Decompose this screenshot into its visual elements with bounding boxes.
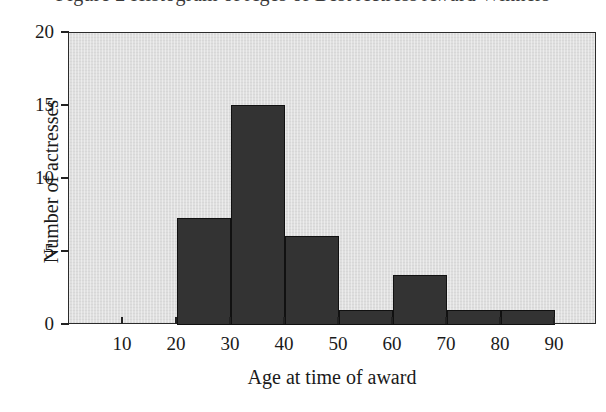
plot-area (68, 32, 596, 324)
x-tick-mark (283, 317, 285, 324)
x-tick-label: 10 (100, 334, 144, 353)
histogram-bar (393, 275, 447, 325)
histogram-bar (177, 218, 231, 325)
x-tick-label: 70 (424, 334, 468, 353)
x-tick-mark (121, 317, 123, 324)
histogram-bar (285, 236, 339, 325)
histogram-bar (339, 310, 393, 325)
x-tick-label: 20 (154, 334, 198, 353)
x-tick-label: 40 (262, 334, 306, 353)
histogram-bar (447, 310, 501, 325)
histogram-bar (231, 105, 285, 325)
y-axis-label: Number of actresses (40, 32, 63, 332)
figure-caption-cutoff: Figure 2 Histogram of Ages of Best Actre… (0, 0, 606, 11)
x-tick-mark (445, 317, 447, 324)
x-tick-mark (175, 317, 177, 324)
x-tick-label: 80 (478, 334, 522, 353)
x-tick-mark (553, 317, 555, 324)
figure-caption-text: Figure 2 Histogram of Ages of Best Actre… (0, 0, 606, 6)
x-tick-label: 50 (316, 334, 360, 353)
histogram-bar (501, 310, 555, 325)
x-tick-mark (391, 317, 393, 324)
x-tick-mark (229, 317, 231, 324)
x-tick-mark (499, 317, 501, 324)
histogram-figure: Figure 2 Histogram of Ages of Best Actre… (0, 0, 606, 412)
x-axis-label: Age at time of award (68, 366, 596, 389)
x-tick-label: 30 (208, 334, 252, 353)
x-tick-label: 60 (370, 334, 414, 353)
x-tick-mark (337, 317, 339, 324)
x-tick-label: 90 (532, 334, 576, 353)
